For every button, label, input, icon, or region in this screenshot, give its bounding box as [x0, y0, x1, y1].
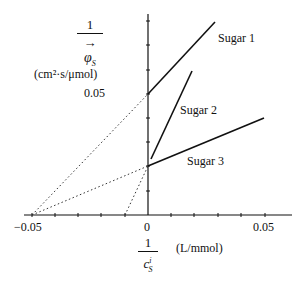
y-tick-label-0.05: 0.05 [84, 86, 105, 101]
extrapolation-lines [32, 94, 148, 215]
sugar-3-label: Sugar 3 [187, 154, 224, 169]
phi-symbol: φ [84, 50, 92, 65]
x-axis-label-denominator: ciS [138, 253, 158, 277]
y-axis-label-fraction: 1 → [77, 18, 103, 50]
y-axis-label-denominator: → [77, 35, 103, 50]
sugar-2-label: Sugar 2 [180, 103, 217, 118]
sugar-1-label: Sugar 1 [218, 31, 255, 46]
c-superscript: i [149, 256, 151, 265]
x-axis-units: (L/mmol) [176, 241, 223, 256]
fraction-bar [138, 251, 158, 252]
y-axis-label-numerator: 1 [77, 18, 103, 32]
x-tick-label-0: 0 [144, 220, 150, 235]
x-tick-label-neg-0.05: −0.05 [14, 220, 42, 235]
x-axis-label-numerator: 1 [138, 236, 158, 250]
c-subscript: S [149, 265, 153, 274]
y-axis-phi: φS [84, 50, 96, 68]
sugar-1-line [148, 22, 215, 94]
x-tick-label-0.05: 0.05 [253, 220, 274, 235]
x-axis-label-fraction: 1 ciS [138, 236, 158, 277]
y-axis-units: (cm²·s/μmol) [34, 67, 97, 82]
fraction-bar [77, 33, 103, 34]
